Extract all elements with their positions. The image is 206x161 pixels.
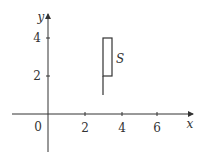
x-tick-label-6: 6 [153,121,161,135]
region-s-rectangle [103,38,112,76]
region-s-label: S [116,52,124,66]
x-axis-label: x [187,117,194,131]
y-tick-label-4: 4 [33,31,41,45]
origin-label: 0 [34,120,42,134]
y-tick-label-2: 2 [33,69,41,83]
coordinate-plane: 0 2 4 6 4 2 x y S [0,0,206,161]
x-tick-label-4: 4 [118,121,126,135]
y-axis-label: y [37,10,45,24]
x-tick-label-2: 2 [81,121,89,135]
